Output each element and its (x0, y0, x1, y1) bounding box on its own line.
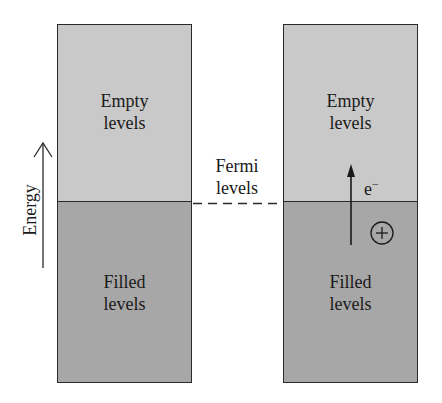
energy-arrow-icon (34, 143, 52, 268)
hole-plus-icon (371, 222, 393, 244)
excitation-arrow-icon (347, 164, 355, 245)
band-diagram: Empty levels Filled levels Empty levels … (0, 0, 442, 403)
diagram-overlay (0, 0, 442, 403)
